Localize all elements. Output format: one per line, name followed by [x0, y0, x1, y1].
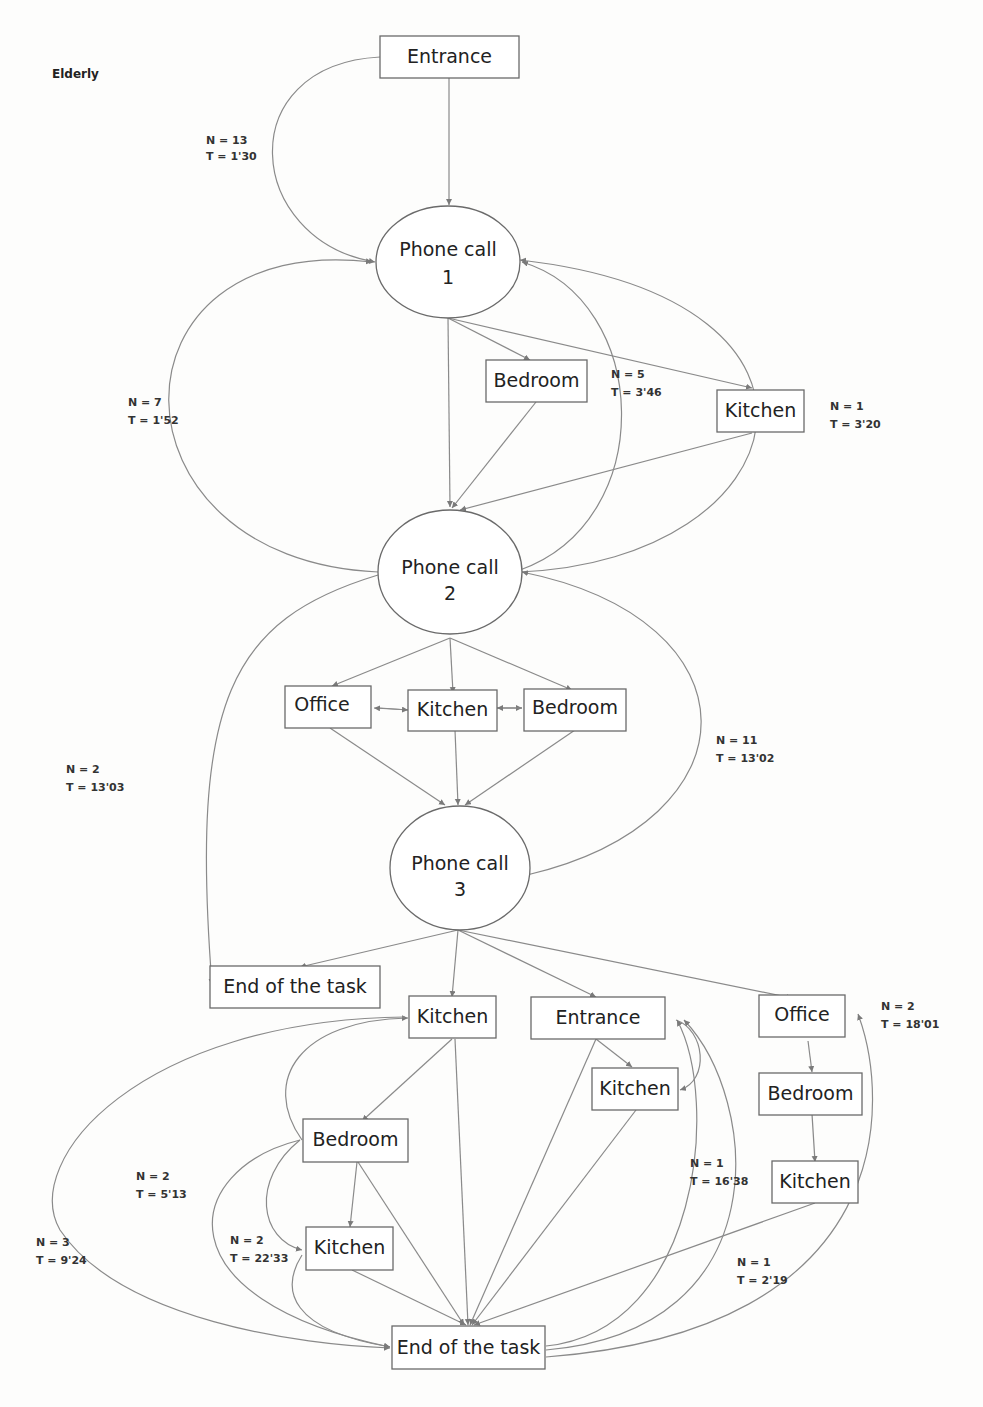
node-bedroom-1[interactable]: Bedroom	[486, 360, 587, 402]
node-end-of-task-mid[interactable]: End of the task	[210, 966, 380, 1008]
edge-label-n2-1303: N = 2 T = 13'03	[66, 763, 124, 794]
svg-text:T = 13'02: T = 13'02	[716, 752, 774, 765]
edge-label-n1-219: N = 1 T = 2'19	[737, 1256, 788, 1287]
svg-text:Kitchen: Kitchen	[314, 1236, 385, 1258]
svg-text:T = 1'52: T = 1'52	[128, 414, 179, 427]
edge-label-n1-1638: N = 1 T = 16'38	[690, 1157, 748, 1188]
svg-text:Office: Office	[774, 1003, 829, 1025]
svg-text:N = 13: N = 13	[206, 134, 247, 147]
svg-text:Phone call: Phone call	[399, 238, 497, 260]
svg-text:2: 2	[444, 582, 456, 604]
node-entrance-3[interactable]: Entrance	[531, 997, 665, 1039]
svg-text:Bedroom: Bedroom	[768, 1082, 854, 1104]
edge-label-n2-1801: N = 2 T = 18'01	[881, 1000, 939, 1031]
svg-text:N = 2: N = 2	[230, 1234, 264, 1247]
node-phone-call-2[interactable]: Phone call 2	[378, 510, 522, 634]
svg-text:Phone call: Phone call	[401, 556, 499, 578]
diagram-canvas: Elderly	[0, 0, 983, 1407]
svg-text:Entrance: Entrance	[407, 45, 492, 67]
svg-text:T = 9'24: T = 9'24	[36, 1254, 87, 1267]
svg-text:T = 3'46: T = 3'46	[611, 386, 662, 399]
svg-text:N = 7: N = 7	[128, 396, 162, 409]
svg-text:Kitchen: Kitchen	[779, 1170, 850, 1192]
diagram-title: Elderly	[52, 67, 99, 81]
svg-text:1: 1	[442, 266, 454, 288]
edge-label-n11: N = 11 T = 13'02	[716, 734, 774, 765]
svg-text:Bedroom: Bedroom	[532, 696, 618, 718]
node-bedroom-3[interactable]: Bedroom	[759, 1073, 862, 1115]
node-office-3[interactable]: Office	[759, 995, 845, 1037]
svg-text:T = 13'03: T = 13'03	[66, 781, 124, 794]
svg-text:N = 2: N = 2	[66, 763, 100, 776]
svg-text:Kitchen: Kitchen	[417, 1005, 488, 1027]
node-kitchen-2[interactable]: Kitchen	[408, 690, 497, 731]
svg-text:Bedroom: Bedroom	[313, 1128, 399, 1150]
svg-text:3: 3	[454, 878, 466, 900]
svg-text:Kitchen: Kitchen	[417, 698, 488, 720]
svg-text:N = 5: N = 5	[611, 368, 645, 381]
node-kitchen-5[interactable]: Kitchen	[772, 1161, 858, 1203]
node-phone-call-1[interactable]: Phone call 1	[376, 206, 520, 318]
svg-text:End of the task: End of the task	[397, 1336, 541, 1358]
svg-text:T = 16'38: T = 16'38	[690, 1175, 748, 1188]
svg-text:T = 1'30: T = 1'30	[206, 150, 257, 163]
svg-text:T = 22'33: T = 22'33	[230, 1252, 288, 1265]
edge-label-n13: N = 13 T = 1'30	[206, 134, 257, 163]
node-kitchen-1[interactable]: Kitchen	[717, 390, 804, 432]
svg-text:T = 2'19: T = 2'19	[737, 1274, 788, 1287]
node-kitchen-3a[interactable]: Kitchen	[409, 996, 496, 1038]
node-entrance-top[interactable]: Entrance	[380, 36, 519, 78]
edge-label-n3-924: N = 3 T = 9'24	[36, 1236, 87, 1267]
svg-text:Kitchen: Kitchen	[725, 399, 796, 421]
edge-label-n1-kitchen: N = 1 T = 3'20	[830, 400, 881, 431]
svg-text:Office: Office	[294, 693, 349, 715]
node-office-2[interactable]: Office	[285, 686, 371, 728]
edge-label-n7: N = 7 T = 1'52	[128, 396, 179, 427]
node-end-of-task-bottom[interactable]: End of the task	[392, 1326, 545, 1369]
svg-text:N = 2: N = 2	[881, 1000, 915, 1013]
svg-text:N = 11: N = 11	[716, 734, 757, 747]
svg-text:N = 2: N = 2	[136, 1170, 170, 1183]
svg-text:T = 18'01: T = 18'01	[881, 1018, 939, 1031]
node-bedroom-2[interactable]: Bedroom	[524, 689, 626, 731]
svg-text:N = 1: N = 1	[737, 1256, 771, 1269]
flow-diagram: Elderly	[0, 0, 983, 1407]
svg-text:N = 3: N = 3	[36, 1236, 70, 1249]
node-phone-call-3[interactable]: Phone call 3	[390, 806, 530, 930]
node-kitchen-3b[interactable]: Kitchen	[592, 1068, 678, 1110]
svg-text:Kitchen: Kitchen	[599, 1077, 670, 1099]
svg-text:N = 1: N = 1	[830, 400, 864, 413]
node-kitchen-4[interactable]: Kitchen	[306, 1227, 393, 1270]
svg-text:Bedroom: Bedroom	[494, 369, 580, 391]
svg-text:T = 5'13: T = 5'13	[136, 1188, 187, 1201]
svg-text:T = 3'20: T = 3'20	[830, 418, 881, 431]
svg-text:N = 1: N = 1	[690, 1157, 724, 1170]
edge-label-n2-513: N = 2 T = 5'13	[136, 1170, 187, 1201]
svg-text:Entrance: Entrance	[555, 1006, 640, 1028]
svg-text:End of the task: End of the task	[223, 975, 367, 997]
edge-label-n2-2233: N = 2 T = 22'33	[230, 1234, 288, 1265]
svg-text:Phone call: Phone call	[411, 852, 509, 874]
node-bedroom-4[interactable]: Bedroom	[303, 1119, 408, 1162]
